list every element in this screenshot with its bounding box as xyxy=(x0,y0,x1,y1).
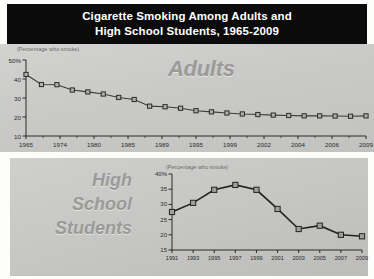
adults-x-tick-label: 1999 xyxy=(223,141,237,148)
chart-figure: Cigarette Smoking Among Adults and High … xyxy=(0,0,374,279)
adults-x-tick-label: 1980 xyxy=(87,141,101,148)
chart-title-line-1: Cigarette Smoking Among Adults and xyxy=(82,9,292,24)
adults-x-tick-label: 2009 xyxy=(359,141,373,148)
high-school-series-label: High School Students xyxy=(14,168,132,240)
high-school-x-tick-label: 1999 xyxy=(250,255,262,261)
adults-plot-svg xyxy=(0,44,374,152)
adults-y-tick-label: 10 xyxy=(14,133,21,140)
adults-x-tick-label: 2002 xyxy=(257,141,271,148)
adults-x-tick-label: 1974 xyxy=(53,141,67,148)
hs-label-line-1: High xyxy=(14,168,132,192)
high-school-y-tick-label: 35 xyxy=(160,186,167,192)
adults-plot: 1020304050%19651974198019851989199519992… xyxy=(0,44,374,152)
adults-x-tick-label: 1995 xyxy=(189,141,203,148)
adults-x-tick-label: 2004 xyxy=(291,141,305,148)
high-school-x-tick-label: 2003 xyxy=(292,255,304,261)
hs-label-line-3: Students xyxy=(14,216,132,240)
hs-label-line-2: School xyxy=(14,192,132,216)
adults-x-tick-label: 1965 xyxy=(19,141,33,148)
adults-x-tick-label: 1989 xyxy=(155,141,169,148)
adults-y-tick-label: 40 xyxy=(14,76,21,83)
adults-x-tick-label: 1985 xyxy=(121,141,135,148)
high-school-x-tick-label: 1995 xyxy=(208,255,220,261)
high-school-x-tick-label: 2007 xyxy=(335,255,347,261)
high-school-y-tick-label: 40% xyxy=(155,171,167,177)
high-school-y-tick-label: 20 xyxy=(160,232,167,238)
high-school-x-tick-label: 1993 xyxy=(187,255,199,261)
adults-y-tick-label: 50% xyxy=(9,57,21,64)
high-school-y-tick-label: 15 xyxy=(160,247,167,253)
adults-y-tick-label: 30 xyxy=(14,95,21,102)
high-school-x-tick-label: 2005 xyxy=(314,255,326,261)
high-school-x-tick-label: 1991 xyxy=(166,255,178,261)
high-school-x-tick-label: 2001 xyxy=(271,255,283,261)
chart-title-line-2: High School Students, 1965-2009 xyxy=(95,24,279,39)
high-school-y-tick-label: 30 xyxy=(160,201,167,207)
chart-title-bar: Cigarette Smoking Among Adults and High … xyxy=(8,5,366,43)
high-school-y-tick-label: 25 xyxy=(160,217,167,223)
high-school-plot: 152025303540%199119931995199719992001200… xyxy=(130,158,374,276)
adults-y-tick-label: 20 xyxy=(14,114,21,121)
high-school-x-tick-label: 2009 xyxy=(356,255,368,261)
high-school-x-tick-label: 1997 xyxy=(229,255,241,261)
adults-x-tick-label: 2006 xyxy=(325,141,339,148)
